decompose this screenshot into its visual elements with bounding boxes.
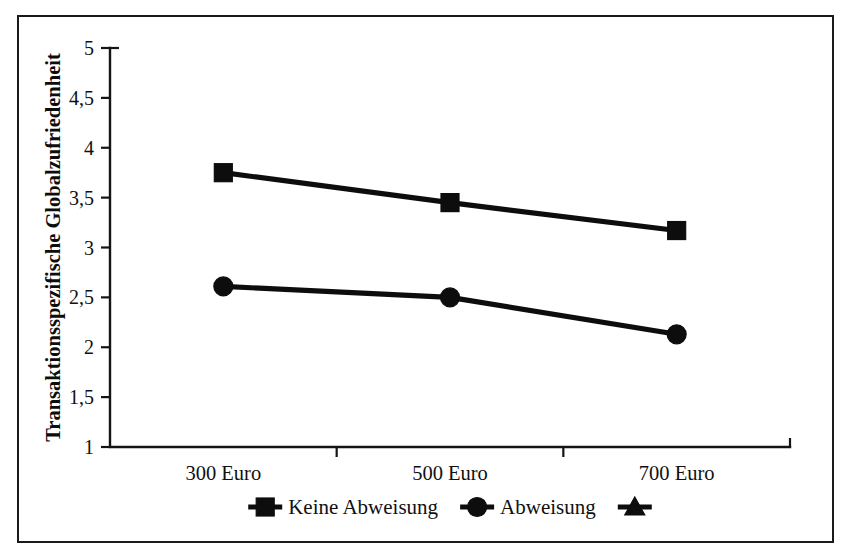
data-point-marker (441, 194, 459, 212)
y-tick-label: 2,5 (69, 286, 94, 308)
y-axis-ticks (101, 48, 110, 447)
y-axis-title: Transaktionsspezifische Globalzufriedenh… (42, 53, 65, 442)
x-axis-tick-labels: 300 Euro500 Euro700 Euro (185, 462, 714, 484)
series-2 (214, 277, 686, 344)
chart-axes (110, 48, 790, 447)
legend-item[interactable]: Keine Abweisung (248, 495, 438, 519)
legend-item-label: Keine Abweisung (288, 495, 438, 519)
y-tick-label: 4 (84, 137, 94, 159)
legend-marker-circle (468, 498, 487, 517)
data-point-marker (667, 325, 686, 344)
y-axis-title-group: Transaktionsspezifische Globalzufriedenh… (42, 53, 65, 442)
y-tick-label: 2 (84, 336, 94, 358)
data-point-marker (214, 164, 232, 182)
x-axis-ticks (337, 447, 564, 457)
series-1 (214, 164, 685, 240)
y-tick-label: 1,5 (69, 386, 94, 408)
y-tick-label: 4,5 (69, 87, 94, 109)
y-tick-label: 5 (84, 37, 94, 59)
data-point-marker (668, 222, 686, 240)
legend-marker-square (256, 498, 274, 516)
x-tick-label: 700 Euro (639, 462, 715, 484)
data-point-marker (214, 277, 233, 296)
y-axis-tick-labels: 11,522,533,544,55 (69, 37, 94, 458)
y-tick-label: 3 (84, 237, 94, 259)
y-tick-label: 3,5 (69, 187, 94, 209)
x-tick-label: 500 Euro (412, 462, 488, 484)
data-series-group (214, 164, 686, 344)
x-tick-label: 300 Euro (185, 462, 261, 484)
legend-item[interactable]: Abweisung (460, 495, 596, 519)
chart-legend: Keine AbweisungAbweisung (248, 495, 652, 519)
legend-item-label: Abweisung (500, 495, 596, 519)
legend-item[interactable] (618, 497, 652, 515)
y-tick-label: 1 (84, 436, 94, 458)
line-chart: 11,522,533,544,55 300 Euro500 Euro700 Eu… (0, 0, 853, 558)
data-point-marker (441, 288, 460, 307)
axis-lines (110, 48, 790, 447)
